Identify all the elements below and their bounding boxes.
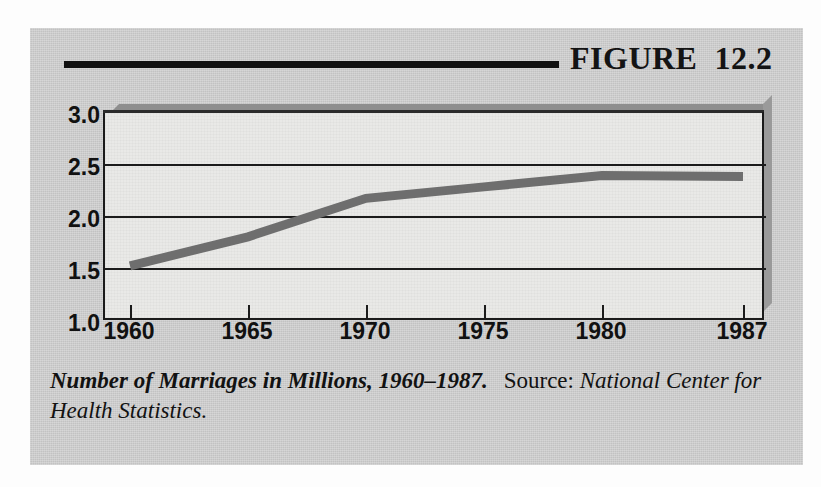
- x-tick-label-1960: 1960: [84, 320, 174, 343]
- chart-plot: 3.0 2.5 2.0 1.5 1.0: [30, 28, 803, 368]
- plot-right-border: [762, 112, 764, 320]
- plot-area: [103, 112, 764, 320]
- figure-panel: FIGURE 12.2 3.0 2.5 2.0 1.5 1.0: [30, 28, 803, 465]
- x-tick-label-1980: 1980: [556, 320, 646, 343]
- x-tick-label-1975: 1975: [438, 320, 528, 343]
- y-axis: 3.0 2.5 2.0 1.5 1.0: [44, 28, 100, 368]
- caption-main: Number of Marriages in Millions, 1960–19…: [50, 368, 488, 393]
- caption-source-label: Source:: [504, 368, 574, 393]
- x-tick-label-1970: 1970: [320, 320, 410, 343]
- figure-caption: Number of Marriages in Millions, 1960–19…: [50, 366, 770, 427]
- y-tick-label-1: 2.0: [44, 208, 100, 231]
- y-tick-label-2: 2.5: [44, 156, 100, 179]
- x-tick-label-1987: 1987: [697, 320, 787, 343]
- x-axis: 1960 1965 1970 1975 1980 1987: [103, 320, 803, 360]
- x-tick-label-1965: 1965: [202, 320, 292, 343]
- plot-top-border: [103, 110, 764, 113]
- data-series-line: [105, 112, 766, 320]
- y-tick-label-3: 3.0: [44, 104, 100, 127]
- y-tick-label-0: 1.5: [44, 260, 100, 283]
- plot-frame: [103, 104, 803, 354]
